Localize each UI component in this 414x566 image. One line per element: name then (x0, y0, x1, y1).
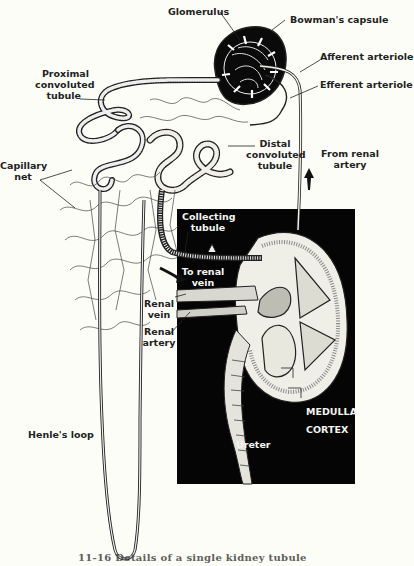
label-distal-convoluted-tubule: Distal convoluted tubule (246, 138, 304, 171)
bowmans-capsule-shape (214, 27, 286, 104)
label-afferent-arteriole: Afferent arteriole (320, 51, 413, 62)
label-glomerulus: Glomerulus (168, 6, 229, 17)
label-ureter: Ureter (236, 439, 271, 450)
label-renal-vein: Renal vein (142, 298, 176, 320)
to-renal-vein-arrow (160, 268, 178, 278)
label-henles-loop: Henle's loop (28, 429, 94, 440)
distal-tubule-shape (150, 132, 230, 190)
label-proximal-convoluted-tubule: Proximal convoluted tubule (35, 68, 89, 101)
label-capillary-net: Capillary net (0, 160, 46, 182)
from-renal-artery-arrow (304, 168, 314, 190)
label-cortex: CORTEX (306, 424, 348, 435)
label-bowmans-capsule: Bowman's capsule (290, 14, 388, 25)
figure-caption: 11-16 Details of a single kidney tubule (78, 552, 307, 563)
henles-loop-shape (100, 190, 145, 559)
label-collecting-tubule: Collecting tubule (182, 211, 234, 233)
label-efferent-arteriole: Efferent arteriole (320, 79, 413, 90)
label-renal-artery: Renal artery (142, 326, 176, 348)
label-from-renal-artery: From renal artery (320, 148, 380, 170)
label-medulla: MEDULLA (306, 406, 357, 417)
label-to-renal-vein: To renal vein (180, 266, 226, 288)
nephron-diagram: Glomerulus Bowman's capsule Afferent art… (0, 0, 414, 566)
